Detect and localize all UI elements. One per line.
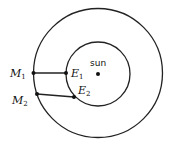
sun-dot bbox=[96, 72, 100, 76]
point-e2 bbox=[72, 95, 76, 99]
orbit-diagram: sun M1 E1 M2 E2 bbox=[0, 0, 174, 147]
point-e1 bbox=[64, 71, 68, 75]
label-m1: M1 bbox=[9, 67, 26, 81]
label-m2: M2 bbox=[11, 94, 28, 108]
point-m1 bbox=[32, 71, 36, 75]
label-e2: E2 bbox=[77, 84, 91, 98]
label-e1: E1 bbox=[70, 67, 84, 81]
line-m2-e2 bbox=[37, 94, 74, 97]
point-m2 bbox=[35, 92, 39, 96]
sun-label: sun bbox=[90, 58, 106, 68]
